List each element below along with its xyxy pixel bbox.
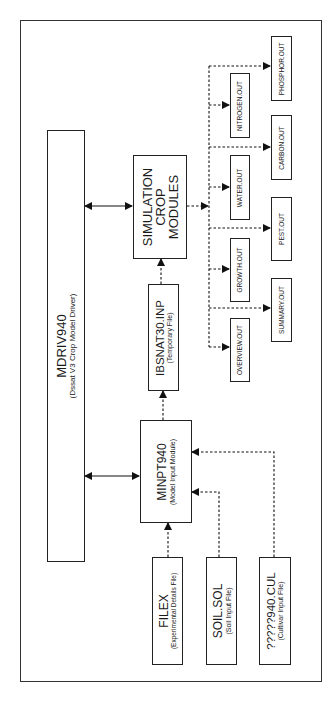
temp-file-box: IBSNAT30.INP (Temporary File)	[148, 284, 179, 391]
driver-subtitle: (Dssat V3 Crop Model Driver)	[69, 294, 77, 399]
input-file-title: FILEX	[158, 573, 171, 649]
output-label: GROWTH.OUT	[237, 247, 244, 292]
input-file-subtitle: (Cultivar Input File)	[277, 572, 284, 649]
output-summary: SUMMARY.OUT	[271, 278, 292, 342]
simulation-box: SIMULATION CROP MODULES	[133, 155, 187, 259]
output-pest: PEST.OUT	[271, 197, 292, 261]
output-carbon: CARBON.OUT	[271, 115, 292, 180]
output-label: SUMMARY.OUT	[278, 286, 285, 334]
temp-file-title: IBSNAT30.INP	[154, 300, 166, 376]
input-file-title: SOIL.SOL	[212, 584, 225, 639]
output-growth: GROWTH.OUT	[230, 238, 250, 302]
temp-file-subtitle: (Temporary File)	[166, 300, 173, 376]
output-water: WATER.OUT	[230, 155, 250, 220]
output-nitrogen: NITROGEN.OUT	[230, 73, 250, 138]
output-overview: OVERVIEW.OUT	[230, 318, 250, 382]
input-file-subtitle: (Soil Input File)	[224, 584, 231, 639]
driver-box: MDRIV940 (Dssat V3 Crop Model Driver)	[47, 130, 85, 562]
input-file-subtitle: (Experimental Details File)	[170, 573, 177, 649]
simulation-line3: MODULES	[167, 168, 180, 247]
output-label: CARBON.OUT	[278, 126, 285, 169]
output-phosphor: PHOSPHOR.OUT	[271, 36, 292, 101]
input-module-box: MINPT940 (Model Input Module)	[140, 420, 192, 523]
driver-title: MDRIV940	[55, 294, 69, 399]
output-label: OVERVIEW.OUT	[237, 325, 244, 375]
input-module-title: MINPT940	[156, 438, 169, 504]
output-label: WATER.OUT	[237, 168, 244, 206]
input-file-cultivar: ?????940.CUL (Cultivar Input File)	[259, 557, 291, 665]
input-file-filex: FILEX (Experimental Details File)	[152, 557, 183, 665]
input-module-subtitle: (Model Input Module)	[169, 438, 176, 504]
output-label: NITROGEN.OUT	[237, 81, 244, 131]
output-label: PEST.OUT	[278, 213, 285, 245]
input-file-soil: SOIL.SOL (Soil Input File)	[206, 557, 237, 665]
output-label: PHOSPHOR.OUT	[278, 42, 285, 95]
input-file-title: ?????940.CUL	[265, 572, 277, 649]
